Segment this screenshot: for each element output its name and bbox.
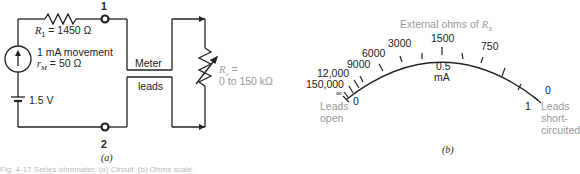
infinity-label: ∞ xyxy=(336,90,342,98)
leads-short-note: Leadsshort-circuited xyxy=(541,100,580,136)
terminal-2-icon xyxy=(102,124,109,131)
current-min-label: 0 xyxy=(353,96,359,107)
terminal-1-icon xyxy=(102,16,109,23)
ohm-tick-6000: 6000 xyxy=(362,48,385,59)
scale-title: External ohms of RX xyxy=(400,19,492,33)
r1-label: R1 = 1450 Ω xyxy=(35,25,91,38)
meter-label: Meter xyxy=(135,58,162,69)
battery-label: 1.5 V xyxy=(29,95,54,106)
ohm-tick-150000: 150,000 xyxy=(306,79,344,90)
movement-label: 1 mA movement xyxy=(37,47,113,58)
figure-caption: Fig. 4-17 Series ohmmeter. (a) Circuit. … xyxy=(0,165,194,174)
leads-open-note: Leadsopen xyxy=(320,100,349,124)
terminal-2-label: 2 xyxy=(101,139,107,150)
ohm-tick-750: 750 xyxy=(481,41,499,52)
current-max-label: 1 xyxy=(525,101,531,112)
ohm-tick-0: 0 xyxy=(545,85,551,96)
ohm-tick-9000: 9000 xyxy=(347,59,370,70)
current-mid-label: 0.5 xyxy=(436,61,451,72)
terminal-1-label: 1 xyxy=(101,1,107,12)
figure-b-label: (b) xyxy=(442,144,454,155)
rm-label: rM = 50 Ω xyxy=(37,58,81,72)
rx-range: 0 to 150 kΩ xyxy=(219,76,273,87)
ohm-tick-1500: 1500 xyxy=(431,33,454,44)
figure-a-label: (a) xyxy=(101,152,113,163)
ohm-tick-3000: 3000 xyxy=(388,38,411,49)
leads-label: leads xyxy=(138,81,163,92)
resistor-r1-icon xyxy=(45,14,76,24)
ohm-tick-12000: 12,000 xyxy=(317,68,349,79)
current-unit-label: mA xyxy=(434,72,450,83)
